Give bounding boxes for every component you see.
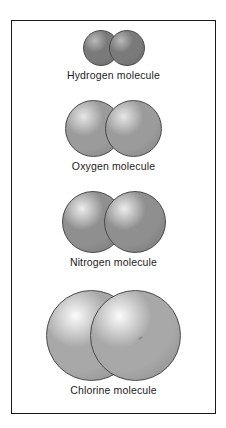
molecule-label-oxygen: Oxygen molecule	[12, 160, 215, 172]
atom-sphere-nitrogen-right	[104, 191, 166, 253]
atom-sphere-chlorine-right	[90, 290, 181, 381]
atom-sphere-hydrogen-right	[109, 30, 145, 66]
figure-border-frame: Hydrogen molecule Oxygen molecule Nitrog…	[11, 20, 216, 414]
molecule-group-hydrogen: Hydrogen molecule	[12, 30, 215, 81]
molecule-diagram-chlorine	[46, 290, 181, 381]
molecule-label-chlorine: Chlorine molecule	[12, 384, 215, 396]
molecule-diagram-hydrogen	[83, 30, 145, 66]
molecule-group-nitrogen: Nitrogen molecule	[12, 191, 215, 268]
molecule-label-nitrogen: Nitrogen molecule	[12, 256, 215, 268]
molecule-diagram-nitrogen	[62, 191, 166, 253]
molecule-group-oxygen: Oxygen molecule	[12, 100, 215, 172]
diagram-canvas: Hydrogen molecule Oxygen molecule Nitrog…	[0, 0, 226, 428]
molecule-label-hydrogen: Hydrogen molecule	[12, 69, 215, 81]
molecule-group-chlorine: Chlorine molecule	[12, 290, 215, 396]
molecule-diagram-oxygen	[65, 100, 162, 157]
atom-sphere-oxygen-right	[105, 100, 162, 157]
